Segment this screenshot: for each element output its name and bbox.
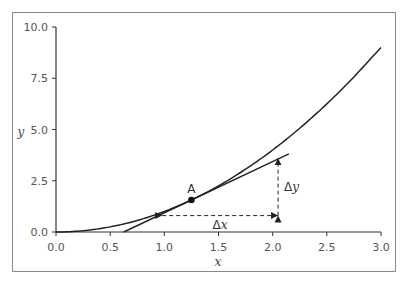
- point-a-label: A: [187, 182, 196, 196]
- x-tick-labels: 0.0 0.5 1.0 1.5 2.0 2.5 3.0: [47, 241, 390, 254]
- x-tick-label: 0.0: [47, 241, 65, 254]
- x-tick-label: 1.0: [156, 241, 174, 254]
- y-tick-label: 7.5: [31, 72, 49, 85]
- y-tick-label: 2.5: [31, 175, 49, 188]
- x-tick-label: 0.5: [101, 241, 119, 254]
- tangent-line: [124, 154, 289, 232]
- delta-x-label: Δx: [213, 218, 228, 232]
- chart-figure: 10.0 7.5 5.0 2.5 0.0 0.0 0.5 1.0 1.5 2.0…: [0, 0, 402, 281]
- x-tick-label: 2.5: [318, 241, 336, 254]
- x-axis: [56, 232, 381, 236]
- y-tick-label: 0.0: [31, 226, 49, 239]
- y-tick-labels: 10.0 7.5 5.0 2.5 0.0: [24, 21, 49, 239]
- x-tick-label: 1.5: [210, 241, 228, 254]
- delta-y-label: Δy: [284, 180, 299, 194]
- point-a-marker: [188, 197, 195, 204]
- y-tick-label: 10.0: [24, 21, 49, 34]
- x-tick-label: 2.0: [264, 241, 282, 254]
- x-tick-label: 3.0: [372, 241, 390, 254]
- chart-frame: [13, 13, 396, 272]
- curve-line: [56, 48, 381, 233]
- y-axis: [52, 27, 56, 232]
- y-axis-label: y: [17, 125, 25, 139]
- delta-y-var: y: [291, 180, 299, 194]
- y-tick-label: 5.0: [31, 124, 49, 137]
- delta-x-var: x: [221, 218, 228, 232]
- x-axis-label: x: [215, 255, 222, 269]
